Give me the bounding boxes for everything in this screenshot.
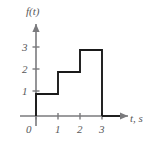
- x-tick-label-0: 0: [26, 124, 32, 135]
- x-axis-arrowhead: [120, 112, 128, 119]
- y-tick-label-3: 3: [22, 42, 28, 53]
- x-tick-label-3: 3: [99, 124, 105, 135]
- y-axis-arrowhead: [32, 24, 39, 32]
- x-tick-label-2: 2: [77, 124, 83, 135]
- chart-canvas: [0, 0, 154, 166]
- y-tick-label-1: 1: [22, 86, 28, 97]
- x-tick-label-1: 1: [55, 124, 61, 135]
- step-function-curve: [36, 50, 102, 116]
- y-axis-title: f(t): [26, 6, 39, 17]
- x-axis-title: t, s: [130, 113, 143, 124]
- y-tick-label-2: 2: [22, 64, 28, 75]
- step-function-chart: f(t) t, s 1 2 3 0 1 2 3: [0, 0, 154, 166]
